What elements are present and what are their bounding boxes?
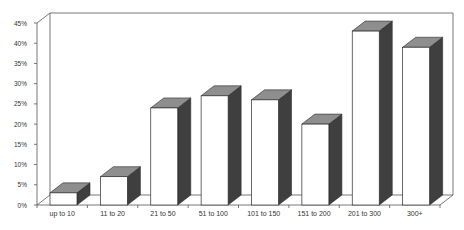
y-tick-label: 10% bbox=[14, 161, 27, 168]
y-tick-label: 5% bbox=[18, 181, 28, 188]
bar-side bbox=[430, 37, 443, 205]
y-tick-label: 25% bbox=[14, 100, 27, 107]
bar-chart: 0%5%10%15%20%25%30%35%40%45% up to 1011 … bbox=[0, 0, 464, 230]
bar bbox=[100, 167, 140, 205]
y-tick-label: 0% bbox=[18, 202, 28, 209]
y-tick-label: 20% bbox=[14, 121, 27, 128]
bar-front bbox=[302, 124, 329, 205]
bar bbox=[352, 21, 392, 205]
bar-front bbox=[403, 47, 430, 205]
bar-side bbox=[329, 114, 342, 205]
chart-canvas: 0%5%10%15%20%25%30%35%40%45% up to 1011 … bbox=[0, 0, 464, 230]
bar bbox=[302, 114, 342, 205]
y-tick-label: 45% bbox=[14, 20, 27, 27]
y-axis: 0%5%10%15%20%25%30%35%40%45% bbox=[14, 20, 37, 209]
bar bbox=[252, 90, 292, 205]
bar bbox=[403, 37, 443, 205]
bar-front bbox=[151, 108, 178, 205]
bar-front bbox=[252, 100, 279, 205]
x-tick-label: 11 to 20 bbox=[100, 210, 125, 217]
bars bbox=[50, 21, 443, 205]
x-tick-label: 201 to 300 bbox=[348, 210, 381, 217]
bar-side bbox=[379, 21, 392, 205]
bar-front bbox=[352, 31, 379, 205]
x-tick-label: up to 10 bbox=[50, 210, 75, 218]
x-tick-label: 101 to 150 bbox=[247, 210, 280, 217]
y-tick-label: 30% bbox=[14, 80, 27, 87]
x-tick-label: 300+ bbox=[407, 210, 423, 217]
bar-front bbox=[201, 96, 228, 205]
left-wall bbox=[37, 13, 50, 205]
bar bbox=[50, 183, 90, 205]
y-tick-label: 35% bbox=[14, 60, 27, 67]
y-tick-label: 40% bbox=[14, 40, 27, 47]
bar-side bbox=[279, 90, 292, 205]
x-tick-label: 21 to 50 bbox=[150, 210, 175, 217]
bar-front bbox=[50, 193, 77, 205]
bar-side bbox=[228, 86, 241, 205]
bar bbox=[201, 86, 241, 205]
y-tick-label: 15% bbox=[14, 141, 27, 148]
x-tick-label: 151 to 200 bbox=[298, 210, 331, 217]
x-tick-label: 51 to 100 bbox=[199, 210, 228, 217]
bar-side bbox=[178, 98, 191, 205]
x-axis: up to 1011 to 2021 to 5051 to 100101 to … bbox=[37, 205, 440, 218]
bar-front bbox=[100, 177, 127, 205]
bar bbox=[151, 98, 191, 205]
